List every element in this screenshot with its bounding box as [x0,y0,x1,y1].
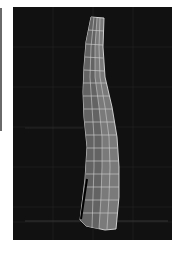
side-panel-edge [0,8,2,131]
3d-viewport[interactable] [13,7,172,240]
wireframe-mesh [80,17,119,230]
viewport-canvas[interactable] [13,7,172,240]
